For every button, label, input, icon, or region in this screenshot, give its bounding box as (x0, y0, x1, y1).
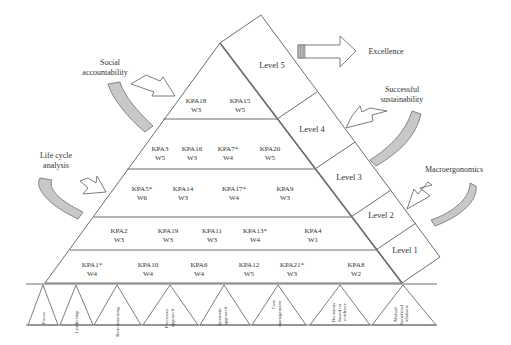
level-2-label: Level 2 (368, 210, 394, 220)
weight-label: W3 (178, 194, 189, 202)
level-divider (277, 92, 317, 119)
lifecycle-label-line1: Life cycle (40, 151, 73, 160)
principle-label: Mutual beneficial relations (393, 304, 409, 325)
kpa-label: KPA11 (202, 227, 223, 235)
inward-arrow-icon (131, 75, 175, 96)
weight-label: W3 (287, 270, 298, 278)
weight-label: W4 (194, 270, 205, 278)
social-label-line1: Social (100, 58, 121, 67)
right-arrow-icon (298, 36, 356, 67)
kpa-label: KPA7* (218, 145, 239, 153)
kpa-label: KPA4 (305, 227, 322, 235)
successful-sustainability-callout: Successful sustainability (346, 85, 423, 166)
level-divider (315, 142, 355, 169)
kpa-label: KPA19 (158, 227, 179, 235)
weight-label: W4 (143, 270, 154, 278)
pyramid-outline (45, 43, 402, 283)
weight-label: W5 (235, 106, 246, 114)
macroergonomics-callout: Macroergonomics (407, 165, 483, 226)
weight-label: W3 (163, 236, 174, 244)
weight-label: W5 (265, 154, 276, 162)
kpa-label: KPA5* (132, 185, 153, 193)
principle-label: Focus (41, 312, 46, 324)
pyramid-diagram: Level 5 Level 4 Level 3 Level 2 Level 1 … (0, 0, 511, 345)
weight-label: W3 (280, 194, 291, 202)
kpa-label: KPA8 (348, 261, 365, 269)
social-label-line2: accountability (82, 68, 127, 77)
weight-label: W4 (87, 270, 98, 278)
kpa-label: KPA10 (138, 261, 159, 269)
weight-label: W4 (250, 236, 261, 244)
kpa-label: KPA16 (182, 145, 203, 153)
principle-label: Cost management (271, 299, 282, 327)
row-level-2: KPA2 W3 KPA19 W3 KPA11 W3 KPA13* W4 KPA4… (111, 227, 322, 244)
weight-label: W6 (137, 194, 148, 202)
kpa-label: KPA3 (152, 145, 169, 153)
curved-band-icon (370, 111, 421, 166)
level-3-label: Level 3 (336, 172, 362, 182)
inward-arrow-icon (407, 182, 432, 209)
base-principles: Focus Leadership Benchmarking Processes … (26, 284, 437, 337)
weight-label: W3 (207, 236, 218, 244)
weight-label: W5 (244, 270, 255, 278)
excellence-arrow: Excellence (298, 36, 404, 67)
social-accountability-callout: Social accountability (82, 58, 175, 132)
level-1-label: Level 1 (392, 245, 418, 255)
principle-label: Leadership (74, 310, 79, 333)
inward-arrow-icon (80, 176, 106, 194)
lifecycle-label-line2: analysis (43, 161, 69, 170)
kpa-label: KPA18 (186, 97, 207, 105)
weight-label: W1 (308, 236, 319, 244)
kpa-label: KPA13* (243, 227, 267, 235)
sustainability-label-line1: Successful (385, 85, 420, 94)
level-5-label: Level 5 (259, 60, 285, 70)
kpa-label: KPA12 (239, 261, 260, 269)
kpa-label: KPA21* (280, 261, 304, 269)
kpa-label: KPA15 (230, 97, 251, 105)
principle-label: Decisions based on evidence (331, 302, 347, 323)
row-level-5: KPA18 W3 KPA15 W5 (186, 97, 251, 114)
row-level-3: KPA5* W6 KPA14 W3 KPA17* W4 KPA9 W3 (132, 185, 294, 202)
principle-label: Systemic approach (217, 306, 228, 326)
curved-band-icon (431, 183, 476, 226)
macroergonomics-label: Macroergonomics (425, 165, 483, 174)
row-level-4: KPA3 W5 KPA16 W3 KPA7* W4 KPA20 W5 (152, 145, 281, 162)
kpa-label: KPA1* (82, 261, 103, 269)
weight-label: W3 (187, 154, 198, 162)
row-level-1: KPA1* W4 KPA10 W4 KPA6 W4 KPA12 W5 KPA21… (82, 261, 365, 278)
level-4-label: Level 4 (299, 124, 325, 134)
inward-arrow-icon (346, 106, 387, 128)
weight-label: W3 (114, 236, 125, 244)
arrow-tail-stripes (298, 45, 305, 58)
weight-label: W2 (351, 270, 362, 278)
weight-label: W4 (229, 194, 240, 202)
excellence-label: Excellence (368, 47, 404, 56)
principle-label: Processes approach (164, 308, 175, 329)
weight-label: W4 (223, 154, 234, 162)
principle-label: Benchmarking (115, 307, 120, 337)
life-cycle-callout: Life cycle analysis (39, 151, 106, 219)
kpa-label: KPA20 (260, 145, 281, 153)
kpa-label: KPA6 (191, 261, 208, 269)
sustainability-label-line2: sustainability (381, 95, 424, 104)
kpa-label: KPA17* (222, 185, 246, 193)
curved-band-icon (39, 178, 83, 219)
kpa-label: KPA2 (111, 227, 128, 235)
kpa-label: KPA14 (173, 185, 194, 193)
kpa-label: KPA9 (277, 185, 294, 193)
weight-label: W5 (155, 154, 166, 162)
weight-label: W3 (191, 106, 202, 114)
pyramid (45, 43, 402, 283)
